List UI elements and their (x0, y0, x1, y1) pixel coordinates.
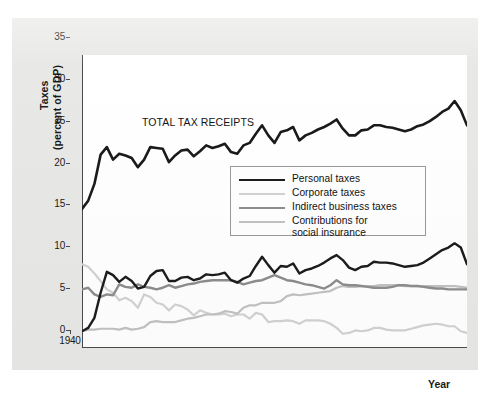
legend-item: Contributions for social insurance (239, 215, 368, 238)
y-tick-label: 10 (41, 240, 65, 251)
y-tick-label: 30 (41, 73, 65, 84)
y-tick-label: 20 (41, 157, 65, 168)
total-tax-receipts-annotation: TOTAL TAX RECEIPTS (142, 116, 254, 129)
scanned-page-panel: Taxes (percent of GDP) 05101520253035 19… (12, 18, 478, 370)
y-tick-mark (66, 37, 70, 38)
legend-label: Personal taxes (292, 173, 360, 185)
legend-item: Personal taxes (239, 173, 360, 185)
y-tick-mark (66, 246, 70, 247)
y-tick-mark (66, 79, 70, 80)
legend-swatch (239, 193, 285, 195)
legend-item: Corporate taxes (239, 187, 365, 199)
y-tick-mark (66, 288, 70, 289)
legend-label: Indirect business taxes (292, 201, 397, 213)
x-tick-mark (70, 330, 71, 334)
legend-label: Contributions for social insurance (292, 215, 368, 238)
y-tick-mark (66, 163, 70, 164)
legend-swatch (239, 221, 285, 223)
y-axis-title-line1: Taxes (38, 81, 50, 111)
x-axis-title: Year (428, 378, 450, 390)
y-tick-label: 5 (41, 282, 65, 293)
chart-legend: Personal taxesCorporate taxesIndirect bu… (230, 166, 426, 236)
y-tick-mark (66, 121, 70, 122)
legend-swatch (239, 179, 285, 181)
legend-label: Corporate taxes (292, 187, 365, 199)
series-line-indirect-business-taxes (82, 275, 467, 297)
series-line-personal-taxes (82, 243, 467, 331)
series-line-contributions-for-social-insurance (82, 285, 467, 331)
legend-item: Indirect business taxes (239, 201, 397, 213)
y-tick-label: 35 (41, 31, 65, 42)
y-tick-mark (66, 204, 70, 205)
figure-container: Taxes (percent of GDP) 05101520253035 19… (0, 0, 496, 394)
y-tick-label: 25 (41, 115, 65, 126)
y-tick-label: 15 (41, 198, 65, 209)
legend-swatch (239, 207, 285, 209)
y-tick-label: 0 (41, 324, 65, 335)
